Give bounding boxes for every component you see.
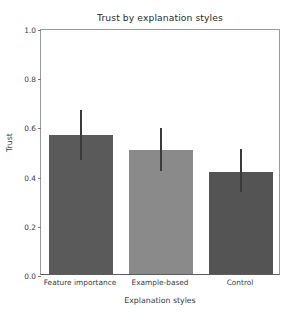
chart-title: Trust by explanation styles: [40, 12, 280, 23]
x-tick-label-0: Feature importance: [44, 278, 117, 287]
y-tick-mark-3: [38, 128, 42, 129]
y-tick-mark-2: [38, 178, 42, 179]
y-tick-label-0: 0.0: [18, 272, 36, 281]
y-tick-mark-4: [38, 79, 42, 80]
y-tick-label-2: 0.4: [18, 173, 36, 182]
bar-chart-figure: Trust by explanation styles 0.00.20.40.6…: [0, 0, 296, 321]
error-bar-1: [160, 128, 161, 171]
error-bar-2: [240, 149, 241, 192]
y-tick-label-4: 0.8: [18, 75, 36, 84]
bars-layer: [41, 30, 279, 274]
y-tick-label-5: 1.0: [18, 26, 36, 35]
y-tick-label-3: 0.6: [18, 124, 36, 133]
x-tick-label-2: Control: [227, 278, 254, 287]
x-tick-label-1: Example-based: [131, 278, 188, 287]
x-axis-label: Explanation styles: [40, 296, 280, 305]
y-tick-label-1: 0.2: [18, 222, 36, 231]
y-tick-mark-0: [38, 276, 42, 277]
y-axis-label: Trust: [5, 133, 14, 152]
error-bar-0: [80, 110, 81, 160]
plot-area: 0.00.20.40.60.81.0: [40, 29, 280, 275]
y-tick-mark-1: [38, 227, 42, 228]
y-tick-mark-5: [38, 30, 42, 31]
